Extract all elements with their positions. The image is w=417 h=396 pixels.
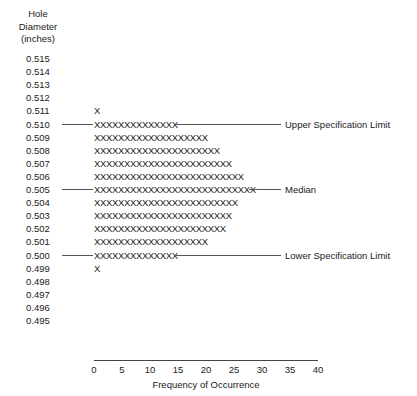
- row-x-marks: XXXXXXXXXXXXXXXXXXXXXXXXX: [94, 170, 244, 183]
- x-axis-tick-35: 35: [285, 364, 296, 376]
- row-x-marks: XXXXXXXXXXXXXXXXXXXXXXX: [94, 157, 232, 170]
- row-x-marks: XXXXXXXXXXXXXXXXXXXXX: [94, 144, 220, 157]
- row-x-marks: XXXXXXXXXXXXXXXXXXXXXXX: [94, 209, 232, 222]
- histogram-row: 0.503XXXXXXXXXXXXXXXXXXXXXXX: [0, 209, 417, 222]
- row-diameter-label: 0.503: [0, 209, 76, 222]
- histogram-row: 0.499X: [0, 262, 417, 275]
- row-diameter-label: 0.499: [0, 262, 76, 275]
- histogram-plot-area: 0.5150.5140.5130.5120.511X0.510XXXXXXXXX…: [0, 52, 417, 352]
- annotation-leader-right: [176, 124, 281, 125]
- row-x-marks: X: [94, 104, 100, 117]
- x-axis-tick-10: 10: [145, 364, 156, 376]
- annotation-leader-left: [62, 189, 93, 190]
- y-axis-title-line-1: Hole: [0, 8, 76, 21]
- row-x-marks: XXXXXXXXXXXXXX: [94, 249, 178, 262]
- annotation-leader-left: [62, 255, 93, 256]
- x-axis-line: [94, 360, 318, 361]
- row-diameter-label: 0.504: [0, 196, 76, 209]
- y-axis-title: Hole Diameter (inches): [0, 8, 76, 46]
- histogram-row: 0.498: [0, 275, 417, 288]
- histogram-row: 0.505XXXXXXXXXXXXXXXXXXXXXXXXXXXMedian: [0, 183, 417, 196]
- x-axis-tick-40: 40: [313, 364, 324, 376]
- histogram-row: 0.502XXXXXXXXXXXXXXXXXXXXXX: [0, 222, 417, 235]
- row-x-marks: XXXXXXXXXXXXXXXXXXXXXX: [94, 222, 226, 235]
- row-x-marks: XXXXXXXXXXXXXXXXXXX: [94, 131, 208, 144]
- histogram-row: 0.513: [0, 78, 417, 91]
- row-annotation-label: Upper Specification Limit: [285, 118, 390, 131]
- histogram-row: 0.510XXXXXXXXXXXXXXUpper Specification L…: [0, 118, 417, 131]
- histogram-row: 0.512: [0, 91, 417, 104]
- row-diameter-label: 0.512: [0, 91, 76, 104]
- histogram-row: 0.497: [0, 288, 417, 301]
- x-axis-tick-15: 15: [173, 364, 184, 376]
- row-diameter-label: 0.497: [0, 288, 76, 301]
- histogram-row: 0.504XXXXXXXXXXXXXXXXXXXXXXXX: [0, 196, 417, 209]
- row-diameter-label: 0.506: [0, 170, 76, 183]
- histogram-row: 0.506XXXXXXXXXXXXXXXXXXXXXXXXX: [0, 170, 417, 183]
- x-axis-tick-20: 20: [201, 364, 212, 376]
- annotation-leader-right: [176, 255, 281, 256]
- x-axis-tick-5: 5: [119, 364, 124, 376]
- row-annotation-label: Median: [285, 183, 316, 196]
- row-diameter-label: 0.495: [0, 314, 76, 327]
- row-diameter-label: 0.511: [0, 104, 76, 117]
- x-axis-tick-30: 30: [257, 364, 268, 376]
- row-annotation-label: Lower Specification Limit: [285, 249, 390, 262]
- histogram-row: 0.500XXXXXXXXXXXXXXLower Specification L…: [0, 249, 417, 262]
- row-diameter-label: 0.507: [0, 157, 76, 170]
- histogram-row: 0.507XXXXXXXXXXXXXXXXXXXXXXX: [0, 157, 417, 170]
- y-axis-title-line-3: (inches): [0, 33, 76, 46]
- histogram-row: 0.511X: [0, 104, 417, 117]
- row-diameter-label: 0.509: [0, 131, 76, 144]
- row-diameter-label: 0.513: [0, 78, 76, 91]
- histogram-row: 0.501XXXXXXXXXXXXXXXXXXX: [0, 235, 417, 248]
- row-diameter-label: 0.515: [0, 52, 76, 65]
- annotation-leader-left: [62, 124, 93, 125]
- histogram-row: 0.495: [0, 314, 417, 327]
- histogram-row: 0.496: [0, 301, 417, 314]
- histogram-row: 0.515: [0, 52, 417, 65]
- row-diameter-label: 0.496: [0, 301, 76, 314]
- row-x-marks: XXXXXXXXXXXXXXXXXXXXXXXXXXX: [94, 183, 256, 196]
- row-x-marks: XXXXXXXXXXXXXX: [94, 118, 178, 131]
- row-diameter-label: 0.508: [0, 144, 76, 157]
- histogram-row: 0.514: [0, 65, 417, 78]
- y-axis-title-line-2: Diameter: [0, 21, 76, 34]
- row-diameter-label: 0.514: [0, 65, 76, 78]
- row-x-marks: XXXXXXXXXXXXXXXXXXXXXXXX: [94, 196, 238, 209]
- annotation-leader-right: [249, 189, 281, 190]
- x-axis-tick-0: 0: [91, 364, 96, 376]
- row-x-marks: X: [94, 262, 100, 275]
- histogram-row: 0.509XXXXXXXXXXXXXXXXXXX: [0, 131, 417, 144]
- row-x-marks: XXXXXXXXXXXXXXXXXXX: [94, 235, 208, 248]
- histogram-row: 0.508XXXXXXXXXXXXXXXXXXXXX: [0, 144, 417, 157]
- x-axis-title: Frequency of Occurrence: [94, 379, 318, 390]
- row-diameter-label: 0.498: [0, 275, 76, 288]
- row-diameter-label: 0.501: [0, 235, 76, 248]
- x-axis-tick-25: 25: [229, 364, 240, 376]
- row-diameter-label: 0.502: [0, 222, 76, 235]
